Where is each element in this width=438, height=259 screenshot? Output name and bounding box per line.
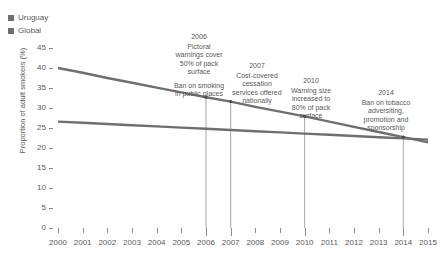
annotation-text-2014: Ban on tobaccoadversiting,promotion ands… — [347, 99, 425, 132]
chart-container: Uruguay Global Proportion of adult smoke… — [0, 0, 438, 259]
annotation-text-2010: Warning sizeincreased to80% of packsurfa… — [275, 87, 347, 120]
annotation-2010: 2010 Warning sizeincreased to80% of pack… — [275, 77, 347, 120]
annotation-year-2014: 2014 — [347, 89, 425, 97]
annotation-year-2007: 2007 — [219, 62, 295, 70]
event-marker-dot — [402, 136, 405, 139]
annotation-year-2010: 2010 — [275, 77, 347, 85]
annotation-2014: 2014 Ban on tobaccoadversiting,promotion… — [347, 89, 425, 132]
annotation-year-2006: 2006 — [160, 33, 238, 41]
